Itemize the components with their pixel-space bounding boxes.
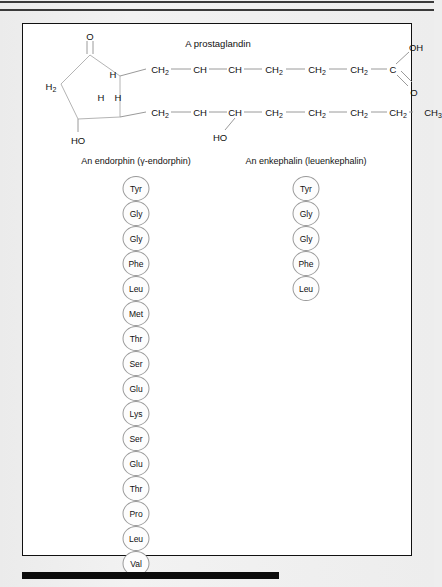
endorphin-residue: Ser — [123, 351, 150, 376]
carboxyl-oxygen-label: O — [410, 87, 417, 98]
endorphin-residue: Tyr — [123, 176, 150, 201]
enkephalin-residue: Phe — [293, 251, 320, 276]
endorphin-residue: Glu — [123, 376, 150, 401]
upper-chain-atom-2: CH — [193, 64, 207, 75]
endorphin-residue: Lys — [123, 401, 150, 426]
upper-chain-atom-5: CH2 — [308, 64, 326, 75]
enkephalin-residue: Leu — [293, 276, 320, 301]
lower-chain-atom-7: CH2 — [389, 107, 407, 118]
top-rule-upper — [0, 1, 434, 3]
ring-hydroxyl-label: HO — [71, 135, 85, 146]
endorphin-residue: Leu — [123, 526, 150, 551]
lower-chain-atom-1: CH2 — [151, 107, 169, 118]
endorphin-residue: Phe — [123, 251, 150, 276]
upper-chain-atom-3: CH — [228, 64, 242, 75]
endorphin-residue: Leu — [123, 276, 150, 301]
enkephalin-residue: Gly — [293, 201, 320, 226]
bottom-bar — [22, 572, 279, 579]
endorphin-residue: Glu — [123, 451, 150, 476]
lower-chain-atom-4: CH2 — [265, 107, 283, 118]
carboxyl-hydroxyl-label: OH — [409, 42, 423, 53]
lower-chain-atom-2: CH — [193, 107, 207, 118]
enkephalin-residue: Tyr — [293, 176, 320, 201]
upper-chain-atom-1: CH2 — [151, 64, 169, 75]
ring-hydrogen-left: H — [98, 92, 105, 103]
lower-chain-atom-6: CH2 — [350, 107, 368, 118]
figure-panel: A prostaglandin — [22, 23, 412, 556]
endorphin-residue: Thr — [123, 476, 150, 501]
enkephalin-residue: Gly — [293, 226, 320, 251]
lower-chain-atom-5: CH2 — [308, 107, 326, 118]
endorphin-residue: Pro — [123, 501, 150, 526]
lower-chain-atom-3: CH — [228, 107, 242, 118]
prostaglandin-structure: O H2 H H H HO CH2 CH CH CH2 CH2 CH2 C OH… — [23, 24, 413, 149]
endorphin-residue: Gly — [123, 226, 150, 251]
endorphin-heading: An endorphin (γ-endorphin) — [81, 156, 191, 166]
carboxyl-carbon-label: C — [390, 64, 397, 75]
endorphin-residue: Gly — [123, 201, 150, 226]
top-rule-lower — [0, 9, 434, 11]
endorphin-residue: Met — [123, 301, 150, 326]
upper-chain-atom-6: CH2 — [350, 64, 368, 75]
prostaglandin-bonds — [23, 24, 413, 149]
ring-hydrogen-top: H — [110, 69, 117, 80]
ketone-oxygen-label: O — [86, 31, 93, 42]
lower-chain-atom-8: CH3 — [424, 107, 442, 118]
upper-chain-atom-4: CH2 — [265, 64, 283, 75]
endorphin-residue: Ser — [123, 426, 150, 451]
endorphin-residue: Thr — [123, 326, 150, 351]
enkephalin-heading: An enkephalin (leuenkephalin) — [245, 156, 366, 166]
ring-ch2-label: H2 — [46, 81, 57, 92]
ring-hydrogen-right: H — [115, 92, 122, 103]
chain-hydroxyl-label: HO — [213, 132, 227, 143]
